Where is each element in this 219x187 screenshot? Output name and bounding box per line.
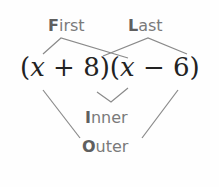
expr-part: + 8)( [45,52,120,82]
outer-connector-right [142,90,178,138]
label-inner: Inner [85,108,128,127]
inner-connector [97,88,128,102]
label-last-initial: L [128,16,138,35]
connector-lines [0,0,219,187]
label-first: First [48,16,85,35]
label-outer-initial: O [82,137,96,156]
label-outer-rest: uter [96,137,129,156]
expr-var: x [30,52,45,82]
label-last: Last [128,16,163,35]
label-inner-rest: nner [91,108,128,127]
outer-connector-left [43,90,80,138]
expr-part: ( [20,52,30,82]
label-first-initial: F [48,16,59,35]
label-last-rest: ast [138,16,162,35]
expr-part: − 6) [135,52,200,82]
foil-diagram: First Last (x + 8)(x − 6) Inner Outer [0,0,219,187]
binomial-expression: (x + 8)(x − 6) [20,52,200,82]
expr-var: x [120,52,135,82]
label-first-rest: irst [59,16,85,35]
label-outer: Outer [82,137,128,156]
